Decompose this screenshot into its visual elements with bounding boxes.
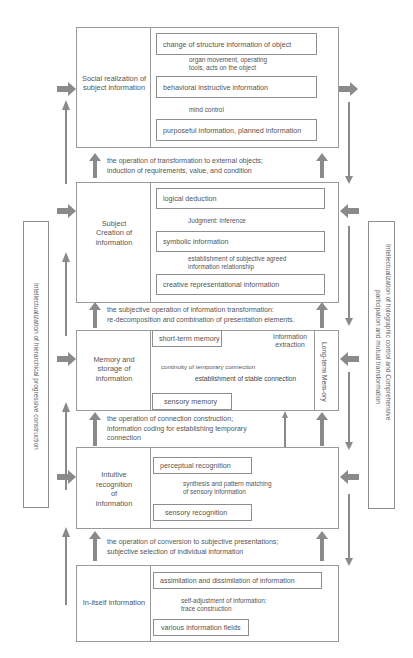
left-in-arrow-3 <box>57 352 76 366</box>
operation-3: the operation of connection construction… <box>107 414 247 443</box>
right-out-arrow <box>339 82 358 96</box>
left-in-arrow-2 <box>57 204 76 218</box>
right-in-arrow-1 <box>340 204 359 218</box>
item-assimilation: assimilation and dissimilation of inform… <box>153 572 322 589</box>
item-symbolic: symbolic information <box>156 231 325 252</box>
level-social-title: Social realization of subject informatio… <box>79 68 149 98</box>
arrow-label-establishment: establishment of subjective agreedinform… <box>188 255 286 271</box>
level-social-realization: Social realization of subject informatio… <box>76 27 339 148</box>
label-continuity: continuity of temporary connection <box>161 363 255 371</box>
item-logical-deduction: logical deduction <box>156 188 325 209</box>
level-subject-creation: SubjectCreation ofinformation logical de… <box>76 182 339 303</box>
item-various-fields: various information fields <box>153 619 249 636</box>
operation-1: the operation of transformation to exter… <box>107 156 263 175</box>
item-behavioral: behavioral instructive information <box>156 76 317 98</box>
right-down-arrow-1 <box>345 102 353 184</box>
item-change-structure: change of structure information of objec… <box>156 33 317 55</box>
label-information-extraction: Informationextraction <box>273 333 307 349</box>
right-in-arrow-3 <box>340 470 359 484</box>
left-up-arrow-2 <box>62 252 70 336</box>
item-creative-representational: creative representational information <box>156 274 325 295</box>
label-stable-connection: establishment of stable connection <box>195 375 296 383</box>
arrow-label-synthesis: synthesis and pattern matchingof sensory… <box>183 480 271 496</box>
right-in-arrow-2 <box>340 352 359 366</box>
arrow-label-self-adjustment: self-adjustment of information:trace con… <box>181 597 267 613</box>
right-down-arrow-3 <box>345 372 353 450</box>
between-up-arrow-left-4 <box>89 531 101 561</box>
item-sensory-memory: sensory memory <box>152 393 232 410</box>
between-up-arrow-left-1 <box>89 153 101 178</box>
item-sensory-recognition: sensory recognition <box>153 504 252 521</box>
operation-2: the subjective operation of information … <box>107 305 295 324</box>
item-purposeful: purposeful information, planned informat… <box>156 119 317 141</box>
level-memory-storage: Memory andstorage ofinformation short-te… <box>76 330 339 411</box>
level-in-itself-information: In-itself information assimilation and d… <box>76 565 339 642</box>
right-down-arrow-2 <box>345 226 353 326</box>
long-term-memory: Long-term Mem-ory <box>319 337 329 407</box>
between-up-arrow-right-3 <box>316 412 328 446</box>
arrow-label-mind-control: mind control <box>189 106 224 114</box>
left-in-arrow-1 <box>57 82 76 96</box>
between-up-arrow-left-3 <box>89 412 101 446</box>
right-down-arrow-4 <box>345 494 353 566</box>
level-intuitive-recognition: Intuitiverecognitionofinformation percep… <box>76 447 339 529</box>
between-up-arrow-right-2 <box>316 302 328 328</box>
level-creation-title: SubjectCreation ofinformation <box>79 215 149 251</box>
left-up-arrow-1 <box>62 100 70 184</box>
level-intuitive-title: Intuitiverecognitionofinformation <box>79 466 149 512</box>
left-up-arrow-4 <box>62 527 70 605</box>
operation-4: the operation of conversion to subjectiv… <box>107 537 278 556</box>
arrow-label-organ: organ movement, operatingtools, acts on … <box>189 56 267 72</box>
arrow-label-judgment: Judgment: inference <box>188 217 246 225</box>
between-up-arrow-right-4 <box>316 531 328 561</box>
item-perceptual-recognition: perceptual recognition <box>153 457 252 474</box>
between-up-arrow-left-2 <box>89 302 101 328</box>
item-short-term-memory: short-term memory <box>152 330 222 347</box>
level-memory-title: Memory andstorage ofinformation <box>79 351 149 387</box>
level-initself-title: In-itself information <box>77 596 151 610</box>
between-up-arrow-right-1 <box>316 153 328 178</box>
